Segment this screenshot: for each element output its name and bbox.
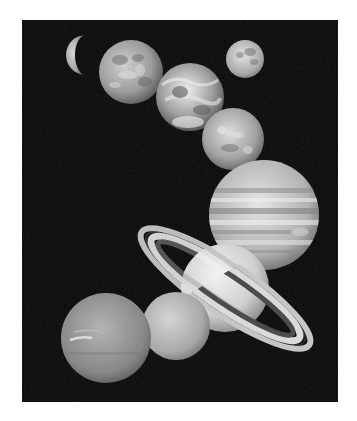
planets-photo: [22, 20, 338, 402]
planets-illustration: [22, 20, 338, 402]
mars: [202, 108, 264, 170]
moon: [226, 40, 264, 78]
uranus: [142, 292, 210, 360]
venus: [99, 40, 163, 104]
